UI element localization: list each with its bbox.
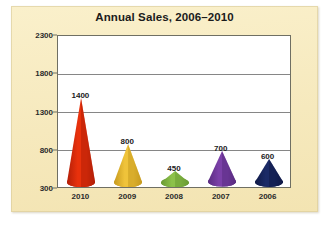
x-axis-tick-label: 2006: [259, 192, 277, 201]
bar-cone: [114, 144, 142, 187]
data-label: 700: [214, 144, 227, 153]
y-axis-tick-label: 300: [7, 184, 53, 193]
data-label: 600: [261, 152, 274, 161]
y-axis-tick-label: 2300: [7, 31, 53, 40]
y-axis-tick-label: 800: [7, 145, 53, 154]
bar-cone: [67, 98, 95, 187]
x-axis: 20102009200820072006: [57, 192, 291, 206]
chart-title: Annual Sales, 2006–2010: [11, 11, 318, 23]
x-axis-tick-label: 2008: [165, 192, 183, 201]
bar-cone: [208, 151, 236, 187]
y-axis-tick-mark: [53, 73, 57, 74]
bar-cone: [161, 171, 189, 187]
chart-image: Annual Sales, 2006–2010 3008001300180023…: [0, 0, 329, 226]
data-label: 800: [121, 137, 134, 146]
bar-cone: [255, 159, 283, 187]
y-axis-tick-mark: [53, 35, 57, 36]
y-axis-tick-mark: [53, 188, 57, 189]
y-axis-tick-mark: [53, 149, 57, 150]
y-axis-tick-mark: [53, 111, 57, 112]
x-axis-tick-label: 2010: [71, 192, 89, 201]
gridline: [58, 74, 290, 75]
data-label: 450: [167, 164, 180, 173]
y-axis-tick-label: 1800: [7, 69, 53, 78]
x-axis-tick-label: 2009: [118, 192, 136, 201]
x-axis-tick-label: 2007: [212, 192, 230, 201]
data-label: 1400: [71, 91, 89, 100]
y-axis: 300800130018002300: [4, 35, 53, 188]
y-axis-tick-label: 1300: [7, 107, 53, 116]
